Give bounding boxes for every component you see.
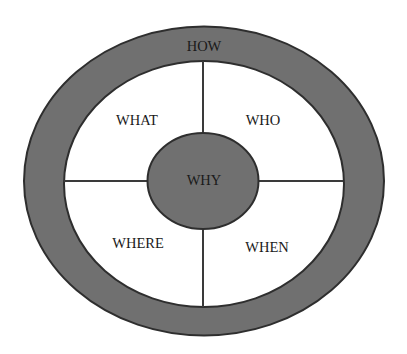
label-why: WHY <box>187 172 222 188</box>
label-what: WHAT <box>116 112 158 128</box>
five-w-one-h-diagram: HOW WHAT WHO WHY WHERE WHEN <box>0 0 407 354</box>
label-who: WHO <box>246 112 281 128</box>
label-when: WHEN <box>245 239 289 255</box>
label-how: HOW <box>187 38 222 54</box>
label-where: WHERE <box>112 235 164 251</box>
